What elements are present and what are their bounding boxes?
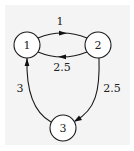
arrow-up-icon	[25, 58, 30, 66]
node-label: 3	[60, 122, 67, 135]
arrow-left-icon	[58, 54, 66, 59]
edge-2-to-1: 2.5	[38, 52, 87, 74]
edge-weight-label: 2.5	[53, 61, 71, 74]
edge-2-to-3: 2.5	[74, 58, 121, 122]
arrow-down-left-icon	[74, 116, 82, 122]
edge-weight-label: 1	[57, 15, 64, 28]
edge-weight-label: 2.5	[103, 82, 121, 95]
edge-line	[27, 58, 51, 122]
node-label: 2	[95, 39, 102, 52]
edge-1-to-2: 1	[38, 15, 87, 38]
graph-diagram: 1 2.5 2.5 3 1 2 3	[0, 0, 134, 151]
node-label: 1	[24, 39, 31, 52]
edge-weight-label: 3	[17, 82, 24, 95]
node-2: 2	[85, 32, 111, 58]
node-3: 3	[50, 115, 76, 141]
arrow-right-icon	[59, 31, 67, 36]
edge-line	[75, 58, 99, 121]
node-1: 1	[14, 32, 40, 58]
edge-3-to-1: 3	[17, 58, 52, 122]
